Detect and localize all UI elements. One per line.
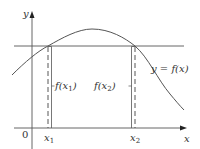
f-x2-prefix: f(x <box>94 80 107 91</box>
f-x1-prefix: f(x <box>55 80 68 91</box>
f-x1-height-marker <box>48 47 52 129</box>
function-graph: y 0 x x1 x2 f(x1) f(x2) y = f(x) <box>0 0 200 149</box>
x-axis-arrow-icon <box>180 126 187 131</box>
x-axis-label: x <box>184 134 190 144</box>
f-x1-label: f(x1) <box>55 81 77 93</box>
x1-subscript: 1 <box>50 137 54 145</box>
f-x2-height-marker <box>132 47 136 129</box>
y-axis-arrow-icon <box>30 11 35 18</box>
f-x2-suffix: ) <box>112 80 116 91</box>
y-axis-label: y <box>23 9 29 19</box>
x2-label: x2 <box>130 133 140 145</box>
x1-label: x1 <box>44 133 54 145</box>
f-x1-suffix: ) <box>73 80 77 91</box>
graph-canvas <box>0 0 200 149</box>
curve-label: y = f(x) <box>151 64 189 74</box>
x2-subscript: 2 <box>136 137 140 145</box>
origin-label: 0 <box>22 130 28 140</box>
f-x2-label: f(x2) <box>94 81 116 93</box>
